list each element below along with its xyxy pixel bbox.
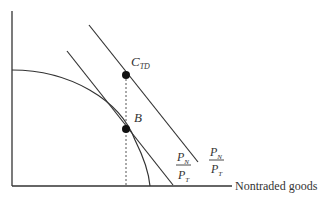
point-ctd: [122, 71, 130, 79]
outer-price-line: [89, 25, 198, 162]
price-ratio-label-outer: PN PT: [209, 145, 224, 178]
point-b: [122, 125, 130, 133]
svg-text:PN: PN: [209, 145, 222, 161]
svg-text:PT: PT: [177, 168, 190, 184]
price-ratio-label-inner: PN PT: [176, 150, 191, 184]
label-ctd: CTD: [131, 54, 150, 71]
svg-text:PN: PN: [176, 150, 189, 166]
ppf-diagram: CTD B PN PT PN PT Nontraded goods: [0, 0, 322, 219]
svg-text:PT: PT: [210, 162, 223, 178]
label-b: B: [134, 110, 142, 125]
x-axis-label: Nontraded goods: [235, 179, 318, 193]
inner-price-line: [67, 51, 173, 185]
